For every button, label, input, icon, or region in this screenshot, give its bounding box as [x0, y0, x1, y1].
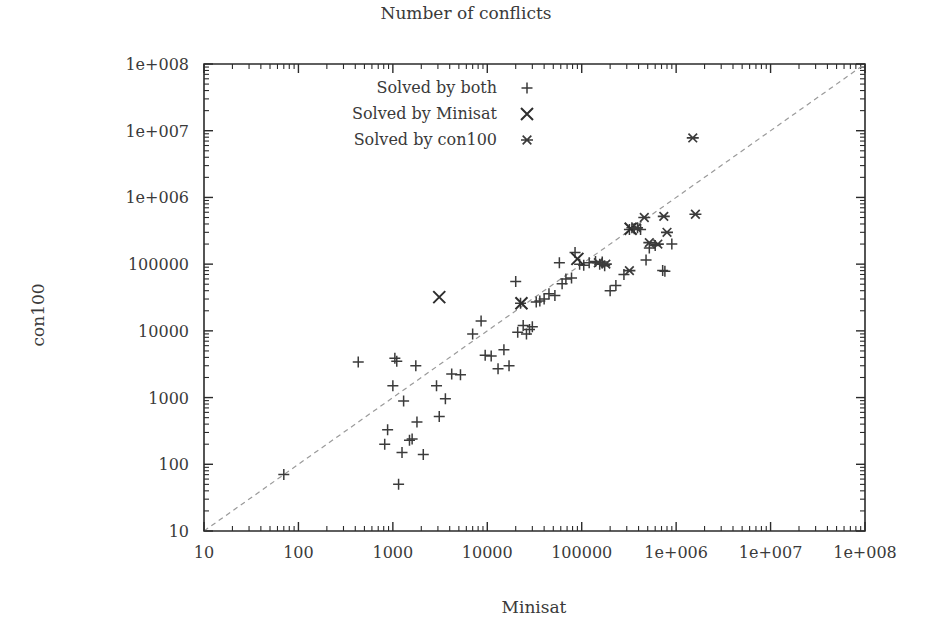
- legend-label-1: Solved by Minisat: [352, 104, 498, 123]
- scatter-plot-figure: Number of conflicts con100 Minisat 10100…: [0, 0, 933, 634]
- x-tick-label: 1e+008: [833, 543, 897, 562]
- x-tick-label: 10000: [462, 543, 513, 562]
- x-tick-label: 1000: [372, 543, 413, 562]
- y-tick-label: 10000: [138, 322, 189, 341]
- x-tick-label: 10: [194, 543, 214, 562]
- x-axis-label: Minisat: [502, 597, 567, 617]
- x-tick-label: 1e+006: [644, 543, 708, 562]
- x-tick-label: 100: [283, 543, 314, 562]
- chart-title: Number of conflicts: [381, 3, 552, 23]
- x-tick-label: 1e+007: [739, 543, 803, 562]
- chart-canvas: Number of conflicts con100 Minisat 10100…: [0, 0, 933, 634]
- x-tick-label: 100000: [551, 543, 612, 562]
- y-tick-label: 1000: [148, 389, 189, 408]
- y-tick-label: 100: [158, 455, 189, 474]
- y-tick-label: 1e+007: [125, 122, 189, 141]
- y-tick-label: 10: [169, 522, 189, 541]
- y-tick-label: 100000: [128, 255, 189, 274]
- y-tick-label: 1e+008: [125, 55, 189, 74]
- y-tick-label: 1e+006: [125, 188, 189, 207]
- y-axis-label: con100: [28, 283, 48, 346]
- legend-label-2: Solved by con100: [354, 130, 497, 149]
- legend-label-0: Solved by both: [376, 78, 497, 97]
